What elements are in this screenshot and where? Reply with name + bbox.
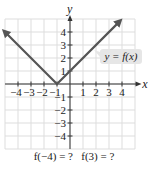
function-label: y = f(x)	[103, 50, 137, 63]
y-tick-label: −3	[54, 117, 66, 129]
x-tick-label: 1	[80, 86, 86, 98]
question-part-1: f(−4) = ?	[34, 150, 73, 162]
question-text: f(−4) = ? f(3) = ?	[0, 150, 148, 162]
x-axis-label: x	[141, 77, 148, 91]
function-graph: −4−3−2−11234−4−3−2−11234 xyy = f(x)	[0, 0, 148, 150]
function-label-pointer	[94, 50, 100, 57]
axes	[5, 15, 142, 149]
x-tick-label: −2	[36, 86, 48, 98]
x-tick-label: 4	[119, 86, 125, 98]
y-tick-label: 4	[61, 26, 67, 38]
x-tick-label: 2	[93, 86, 99, 98]
y-tick-label: −2	[54, 104, 66, 116]
x-tick-label: 3	[106, 86, 112, 98]
y-tick-label: −4	[54, 130, 66, 142]
y-tick-label: 2	[61, 52, 67, 64]
x-tick-label: −3	[23, 86, 35, 98]
y-axis-label: y	[66, 2, 73, 16]
y-axis-arrow-icon	[68, 15, 73, 21]
labels: xyy = f(x)	[66, 2, 148, 92]
question-part-2: f(3) = ?	[81, 150, 114, 162]
y-tick-label: 3	[61, 39, 67, 51]
x-tick-label: −4	[10, 86, 22, 98]
x-axis-arrow-icon	[136, 82, 142, 87]
y-tick-label: −1	[54, 91, 66, 103]
